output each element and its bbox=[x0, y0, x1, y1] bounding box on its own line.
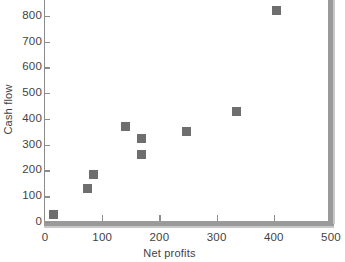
y-tick-label: 600 bbox=[2, 61, 42, 73]
data-point bbox=[89, 170, 98, 179]
data-point bbox=[49, 210, 58, 219]
y-tick-label: 100 bbox=[2, 190, 42, 202]
x-tick-label: 400 bbox=[254, 232, 294, 244]
x-tick-label: 0 bbox=[25, 232, 65, 244]
y-tick-label: 700 bbox=[2, 36, 42, 48]
y-tick bbox=[45, 222, 50, 223]
data-point bbox=[137, 150, 146, 159]
data-point bbox=[121, 122, 130, 131]
y-axis-title: Cash flow bbox=[3, 74, 14, 146]
y-tick-label: 0 bbox=[2, 216, 42, 228]
x-tick-label: 500 bbox=[311, 232, 345, 244]
x-axis-title: Net profits bbox=[0, 248, 339, 259]
data-point bbox=[232, 107, 241, 116]
data-point bbox=[182, 127, 191, 136]
data-point bbox=[272, 6, 281, 15]
data-point bbox=[137, 134, 146, 143]
y-tick-label: 200 bbox=[2, 164, 42, 176]
x-tick-label: 100 bbox=[82, 232, 122, 244]
y-tick-label: 800 bbox=[2, 10, 42, 22]
data-point bbox=[83, 184, 92, 193]
x-tick-label: 300 bbox=[197, 232, 237, 244]
x-tick-label: 200 bbox=[139, 232, 179, 244]
plot-area bbox=[45, 0, 331, 222]
